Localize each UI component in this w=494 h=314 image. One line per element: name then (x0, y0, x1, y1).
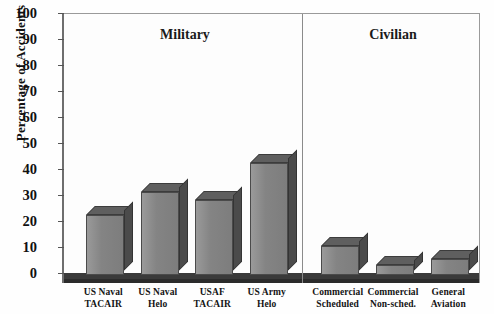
x-axis-label-line2: Aviation (415, 299, 481, 311)
y-axis-tick (58, 39, 64, 40)
bar-front-face (250, 163, 288, 275)
bar-chart: Percentage of Accidents 0102030405060708… (0, 0, 494, 314)
bar (250, 163, 288, 275)
y-axis-tick (58, 247, 64, 248)
y-axis-tick-label: 100 (0, 6, 37, 21)
bar-side-face (288, 150, 297, 271)
y-axis-tick (58, 273, 64, 274)
bar-side-face (414, 251, 423, 270)
bar-front-face (376, 265, 414, 275)
bar-side-face (179, 178, 188, 270)
bar-front-face (321, 246, 359, 275)
bar (195, 200, 233, 275)
y-axis-tick-label: 70 (0, 84, 37, 99)
section-label-military: Military (125, 27, 245, 43)
plot-area: 0102030405060708090100 (62, 13, 480, 283)
bar (321, 246, 359, 275)
bar-side-face (359, 233, 368, 271)
bar-side-face (233, 186, 242, 270)
y-axis-tick-label: 30 (0, 188, 37, 203)
y-axis-tick (58, 65, 64, 66)
y-axis-tick (58, 143, 64, 144)
y-axis-tick (58, 91, 64, 92)
y-axis-tick (58, 169, 64, 170)
bar-front-face (431, 259, 469, 275)
baseline-floor-front (64, 279, 479, 283)
bar (86, 215, 124, 275)
section-label-civilian: Civilian (333, 27, 453, 43)
y-axis-tick (58, 117, 64, 118)
y-axis-tick-label: 90 (0, 32, 37, 47)
bar-front-face (141, 192, 179, 275)
y-axis-tick (58, 221, 64, 222)
y-axis-tick-label: 10 (0, 240, 37, 255)
x-axis-label: GeneralAviation (415, 287, 481, 310)
plot-inner (64, 14, 479, 283)
bar-front-face (86, 215, 124, 275)
bar-side-face (124, 202, 133, 271)
y-axis-tick-label: 60 (0, 110, 37, 125)
y-axis-tick (58, 195, 64, 196)
x-axis-label-line2: Helo (234, 299, 300, 311)
y-axis-tick-label: 0 (0, 266, 37, 281)
bar (431, 259, 469, 275)
y-axis-tick-label: 80 (0, 58, 37, 73)
y-axis-tick-label: 40 (0, 162, 37, 177)
group-divider (302, 14, 303, 283)
bar-front-face (195, 200, 233, 275)
bar (141, 192, 179, 275)
x-axis-label-line1: US Army (234, 287, 300, 299)
y-axis-tick (58, 13, 64, 14)
bar (376, 265, 414, 275)
y-axis-tick-label: 20 (0, 214, 37, 229)
x-axis-label: US ArmyHelo (234, 287, 300, 310)
y-axis-tick-label: 50 (0, 136, 37, 151)
x-axis-label-line1: General (415, 287, 481, 299)
